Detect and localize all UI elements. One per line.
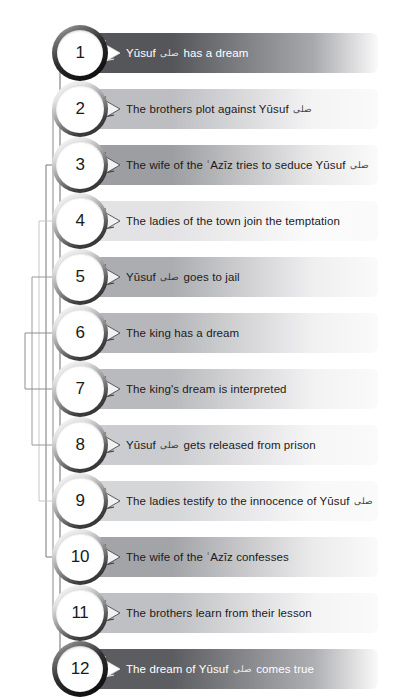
badge-number-text: 11 (52, 585, 108, 641)
badge-number-text: 12 (52, 641, 108, 697)
scene-label-9: The ladies testify to the innocence of Y… (126, 481, 374, 521)
scene-text-primary: The dream of Yūsuf (126, 663, 229, 675)
scene-row-8[interactable]: Yūsuf صلى gets released from prison8 (0, 417, 396, 473)
scene-number-badge-9[interactable]: 9 (52, 473, 108, 529)
scene-label-2: The brothers plot against Yūsuf صلى (126, 89, 313, 129)
honorific-glyph-icon: صلى (354, 481, 373, 521)
honorific-glyph-icon: صلى (160, 425, 179, 465)
badge-number-text: 8 (52, 417, 108, 473)
scene-text-secondary: goes to jail (184, 271, 240, 283)
scene-number-badge-5[interactable]: 5 (52, 249, 108, 305)
scene-text-primary: The ladies testify to the innocence of Y… (126, 495, 349, 507)
scene-number-badge-7[interactable]: 7 (52, 361, 108, 417)
scene-row-10[interactable]: The wife of the ʿAzīz confesses10 (0, 529, 396, 585)
scene-label-6: The king has a dream (126, 313, 239, 353)
scene-label-11: The brothers learn from their lesson (126, 593, 312, 633)
scene-text-primary: The ladies of the town join the temptati… (126, 215, 340, 227)
scene-label-5: Yūsuf صلى goes to jail (126, 257, 240, 297)
scene-number-badge-8[interactable]: 8 (52, 417, 108, 473)
scene-row-3[interactable]: The wife of the ʿAzīz tries to seduce Yū… (0, 137, 396, 193)
scene-bar-2[interactable]: The brothers plot against Yūsuf صلى (84, 89, 378, 129)
scene-label-12: The dream of Yūsuf صلى comes true (126, 649, 314, 689)
scene-number-badge-4[interactable]: 4 (52, 193, 108, 249)
honorific-glyph-icon: صلى (160, 33, 179, 73)
badge-number-text: 3 (52, 137, 108, 193)
scene-text-primary: The wife of the ʿAzīz confesses (126, 551, 289, 563)
scene-text-primary: The king has a dream (126, 327, 239, 339)
scene-row-4[interactable]: The ladies of the town join the temptati… (0, 193, 396, 249)
scene-bar-10[interactable]: The wife of the ʿAzīz confesses (84, 537, 378, 577)
scene-text-primary: Yūsuf (126, 439, 156, 451)
scene-text-primary: The brothers learn from their lesson (126, 607, 312, 619)
scene-text-primary: Yūsuf (126, 47, 156, 59)
scene-row-12[interactable]: The dream of Yūsuf صلى comes true12 (0, 641, 396, 697)
scene-number-badge-3[interactable]: 3 (52, 137, 108, 193)
scene-text-secondary: gets released from prison (184, 439, 316, 451)
scene-row-2[interactable]: The brothers plot against Yūsuf صلى2 (0, 81, 396, 137)
honorific-glyph-icon: صلى (293, 89, 312, 129)
badge-number-text: 10 (52, 529, 108, 585)
scene-row-5[interactable]: Yūsuf صلى goes to jail5 (0, 249, 396, 305)
scene-bar-5[interactable]: Yūsuf صلى goes to jail (84, 257, 378, 297)
scene-row-1[interactable]: Yūsuf صلى has a dream1 (0, 25, 396, 81)
honorific-glyph-icon: صلى (233, 649, 252, 689)
scene-label-4: The ladies of the town join the temptati… (126, 201, 340, 241)
scene-number-badge-1[interactable]: 1 (52, 25, 108, 81)
scene-bar-8[interactable]: Yūsuf صلى gets released from prison (84, 425, 378, 465)
scene-number-badge-12[interactable]: 12 (52, 641, 108, 697)
scene-bar-12[interactable]: The dream of Yūsuf صلى comes true (84, 649, 378, 689)
badge-number-text: 2 (52, 81, 108, 137)
honorific-glyph-icon: صلى (350, 145, 369, 185)
scene-bar-6[interactable]: The king has a dream (84, 313, 378, 353)
scene-label-10: The wife of the ʿAzīz confesses (126, 537, 289, 577)
scene-bar-1[interactable]: Yūsuf صلى has a dream (84, 33, 378, 73)
badge-number-text: 9 (52, 473, 108, 529)
scene-row-6[interactable]: The king has a dream6 (0, 305, 396, 361)
scene-bar-4[interactable]: The ladies of the town join the temptati… (84, 201, 378, 241)
scene-number-badge-6[interactable]: 6 (52, 305, 108, 361)
scene-text-primary: The wife of the ʿAzīz tries to seduce Yū… (126, 159, 346, 171)
scene-number-badge-11[interactable]: 11 (52, 585, 108, 641)
scene-row-11[interactable]: The brothers learn from their lesson11 (0, 585, 396, 641)
scene-label-3: The wife of the ʿAzīz tries to seduce Yū… (126, 145, 370, 185)
scene-number-badge-2[interactable]: 2 (52, 81, 108, 137)
scene-row-7[interactable]: The king's dream is interpreted7 (0, 361, 396, 417)
scene-number-badge-10[interactable]: 10 (52, 529, 108, 585)
scene-bar-7[interactable]: The king's dream is interpreted (84, 369, 378, 409)
scene-text-primary: The king's dream is interpreted (126, 383, 287, 395)
badge-number-text: 4 (52, 193, 108, 249)
scene-label-7: The king's dream is interpreted (126, 369, 287, 409)
scene-label-1: Yūsuf صلى has a dream (126, 33, 249, 73)
scene-bar-9[interactable]: The ladies testify to the innocence of Y… (84, 481, 378, 521)
badge-number-text: 5 (52, 249, 108, 305)
scene-text-secondary: comes true (256, 663, 314, 675)
scene-text-secondary: has a dream (184, 47, 249, 59)
badge-number-text: 7 (52, 361, 108, 417)
badge-number-text: 6 (52, 305, 108, 361)
scene-text-primary: The brothers plot against Yūsuf (126, 103, 289, 115)
badge-number-text: 1 (52, 25, 108, 81)
scene-row-9[interactable]: The ladies testify to the innocence of Y… (0, 473, 396, 529)
scene-text-primary: Yūsuf (126, 271, 156, 283)
scene-bar-11[interactable]: The brothers learn from their lesson (84, 593, 378, 633)
scene-label-8: Yūsuf صلى gets released from prison (126, 425, 316, 465)
honorific-glyph-icon: صلى (160, 257, 179, 297)
scene-bar-3[interactable]: The wife of the ʿAzīz tries to seduce Yū… (84, 145, 378, 185)
